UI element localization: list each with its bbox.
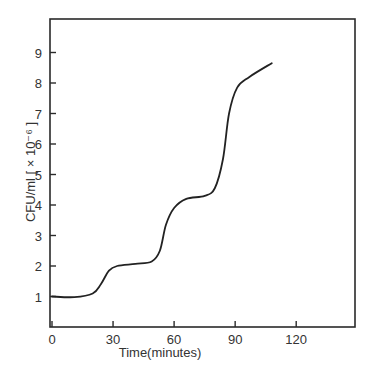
growth-curve bbox=[52, 63, 272, 297]
y-tick-label: 8 bbox=[35, 76, 42, 91]
y-tick-label: 3 bbox=[35, 229, 42, 244]
plot-frame bbox=[50, 19, 355, 327]
series-line bbox=[52, 63, 272, 297]
x-tick-label: 120 bbox=[285, 332, 307, 347]
plot-border bbox=[50, 19, 355, 327]
y-axis-unit: [ × 10⁻⁶ ] bbox=[23, 122, 38, 178]
chart: 123456789 0306090120 Time(minutes) CFU/m… bbox=[0, 0, 380, 372]
y-axis-title: CFU/ml [ × 10⁻⁶ ] bbox=[23, 122, 38, 222]
y-tick-label: 1 bbox=[35, 290, 42, 305]
x-tick-label: 90 bbox=[228, 332, 242, 347]
x-axis-title: Time(minutes) bbox=[119, 345, 202, 360]
x-tick-label: 0 bbox=[48, 332, 55, 347]
x-axis-ticks: 0306090120 bbox=[48, 321, 307, 347]
y-tick-label: 7 bbox=[35, 107, 42, 122]
y-tick-label: 9 bbox=[35, 46, 42, 61]
y-tick-label: 2 bbox=[35, 259, 42, 274]
